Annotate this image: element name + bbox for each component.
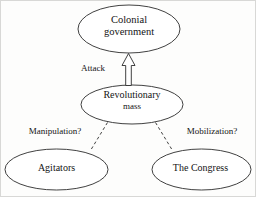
node-ellipse-the-congress[interactable] xyxy=(152,149,251,190)
edge-label-manipulation: Manipulation? xyxy=(13,127,97,137)
edge-label-attack: Attack xyxy=(70,64,116,74)
node-ellipse-colonial-government[interactable] xyxy=(78,5,180,53)
attack-block-arrow[interactable] xyxy=(122,54,135,86)
edge-mobilization-link[interactable] xyxy=(156,123,173,151)
node-ellipse-agitators[interactable] xyxy=(5,149,108,190)
edge-label-mobilization: Mobilization? xyxy=(172,127,252,137)
node-ellipse-revolutionary-mass[interactable] xyxy=(81,85,183,124)
diagram-canvas: Colonial government Revolutionary mass A… xyxy=(0,0,256,197)
diagram-graphics xyxy=(0,0,256,197)
